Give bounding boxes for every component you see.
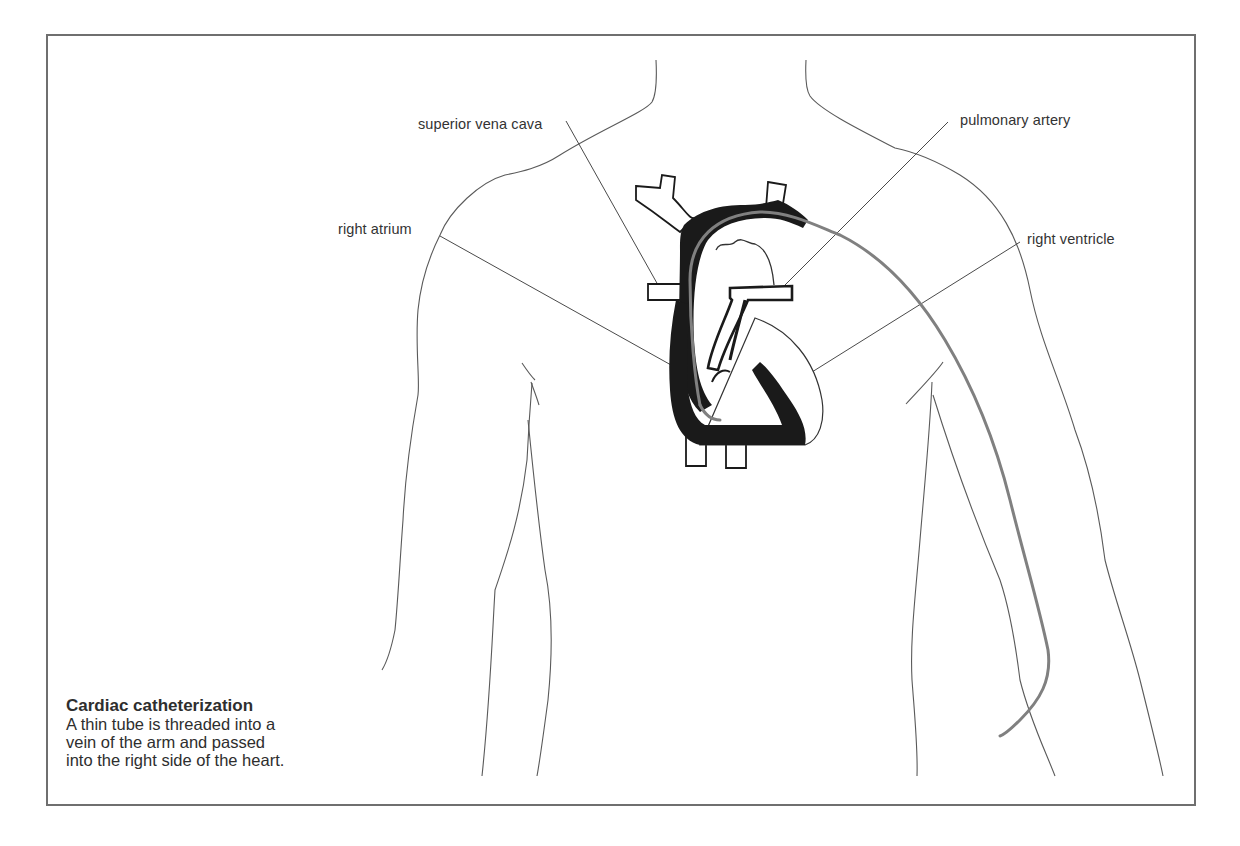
leader-pulmonary-artery	[775, 122, 948, 295]
caption-title: Cardiac catheterization	[66, 697, 284, 715]
caption-line-3: into the right side of the heart.	[66, 751, 284, 769]
leader-lines	[440, 121, 1020, 412]
leader-right-atrium	[440, 236, 680, 370]
caption-line-1: A thin tube is threaded into a	[66, 715, 284, 733]
caption: Cardiac catheterization A thin tube is t…	[66, 697, 284, 769]
caption-line-2: vein of the arm and passed	[66, 733, 284, 751]
label-pulmonary-artery: pulmonary artery	[960, 112, 1070, 128]
label-superior-vena-cava: superior vena cava	[418, 116, 542, 132]
label-right-atrium: right atrium	[338, 221, 412, 237]
label-right-ventricle: right ventricle	[1027, 231, 1115, 247]
